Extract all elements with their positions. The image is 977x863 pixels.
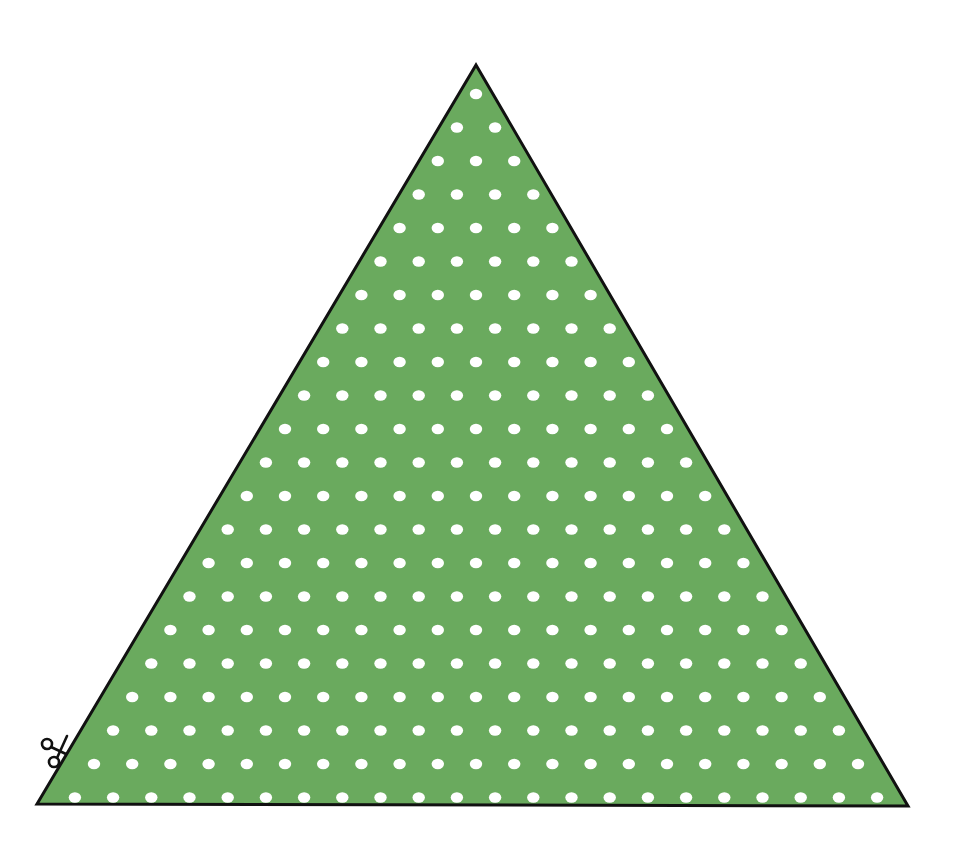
dot bbox=[145, 658, 157, 668]
dot bbox=[241, 692, 253, 702]
dot bbox=[527, 189, 539, 199]
dot bbox=[699, 625, 711, 635]
dot bbox=[317, 357, 329, 367]
dot bbox=[413, 323, 425, 333]
dot bbox=[451, 390, 463, 400]
dot bbox=[680, 524, 692, 534]
dot bbox=[317, 692, 329, 702]
dot bbox=[604, 457, 616, 467]
dot bbox=[508, 223, 520, 233]
dot bbox=[355, 290, 367, 300]
dot bbox=[699, 491, 711, 501]
dot bbox=[374, 792, 386, 802]
dot bbox=[508, 491, 520, 501]
dot bbox=[413, 189, 425, 199]
dot bbox=[699, 692, 711, 702]
dot bbox=[546, 692, 558, 702]
dot bbox=[565, 457, 577, 467]
dot bbox=[680, 658, 692, 668]
dot bbox=[202, 692, 214, 702]
dot bbox=[241, 759, 253, 769]
dot bbox=[374, 256, 386, 266]
dot bbox=[451, 189, 463, 199]
dot bbox=[451, 725, 463, 735]
dot bbox=[260, 725, 272, 735]
dot bbox=[527, 658, 539, 668]
dot bbox=[298, 792, 310, 802]
dot bbox=[451, 591, 463, 601]
dot bbox=[470, 759, 482, 769]
dot bbox=[202, 625, 214, 635]
dot bbox=[432, 759, 444, 769]
dot bbox=[413, 524, 425, 534]
dot bbox=[336, 457, 348, 467]
dot bbox=[546, 558, 558, 568]
dot bbox=[241, 558, 253, 568]
dot bbox=[183, 658, 195, 668]
dot bbox=[489, 256, 501, 266]
dot bbox=[393, 491, 405, 501]
dot bbox=[279, 759, 291, 769]
dot bbox=[241, 625, 253, 635]
triangle-figure bbox=[0, 0, 977, 863]
dot bbox=[508, 156, 520, 166]
dot bbox=[413, 256, 425, 266]
dot bbox=[680, 457, 692, 467]
dot bbox=[623, 558, 635, 568]
dot bbox=[508, 290, 520, 300]
dot bbox=[260, 524, 272, 534]
dot bbox=[737, 692, 749, 702]
dot bbox=[489, 457, 501, 467]
dot bbox=[508, 558, 520, 568]
dot bbox=[393, 558, 405, 568]
dot bbox=[470, 491, 482, 501]
dot bbox=[489, 524, 501, 534]
dot bbox=[642, 658, 654, 668]
dot bbox=[336, 725, 348, 735]
dot bbox=[642, 390, 654, 400]
dot bbox=[604, 725, 616, 735]
dot bbox=[584, 692, 596, 702]
dot bbox=[374, 524, 386, 534]
dot bbox=[336, 792, 348, 802]
dot bbox=[584, 424, 596, 434]
dot bbox=[222, 591, 234, 601]
dot bbox=[413, 792, 425, 802]
dot bbox=[814, 759, 826, 769]
dot bbox=[432, 357, 444, 367]
dot bbox=[69, 792, 81, 802]
dot bbox=[413, 390, 425, 400]
dot bbox=[355, 357, 367, 367]
dot bbox=[260, 792, 272, 802]
dot bbox=[546, 424, 558, 434]
dot bbox=[393, 424, 405, 434]
dot bbox=[565, 658, 577, 668]
dot bbox=[680, 591, 692, 601]
dot bbox=[107, 792, 119, 802]
dot bbox=[317, 424, 329, 434]
dot bbox=[489, 792, 501, 802]
dot bbox=[527, 390, 539, 400]
dot bbox=[432, 692, 444, 702]
dot bbox=[336, 390, 348, 400]
dot bbox=[470, 223, 482, 233]
dot bbox=[336, 591, 348, 601]
dot bbox=[355, 558, 367, 568]
dot bbox=[546, 759, 558, 769]
dot bbox=[489, 725, 501, 735]
dot bbox=[374, 725, 386, 735]
dot bbox=[393, 223, 405, 233]
dot bbox=[260, 658, 272, 668]
dot bbox=[470, 692, 482, 702]
dot bbox=[623, 357, 635, 367]
dot bbox=[374, 323, 386, 333]
dot bbox=[489, 591, 501, 601]
dot bbox=[126, 692, 138, 702]
dot bbox=[317, 558, 329, 568]
dot bbox=[527, 323, 539, 333]
dot bbox=[623, 625, 635, 635]
dot bbox=[298, 658, 310, 668]
dot bbox=[145, 725, 157, 735]
dot bbox=[565, 591, 577, 601]
dot bbox=[718, 524, 730, 534]
